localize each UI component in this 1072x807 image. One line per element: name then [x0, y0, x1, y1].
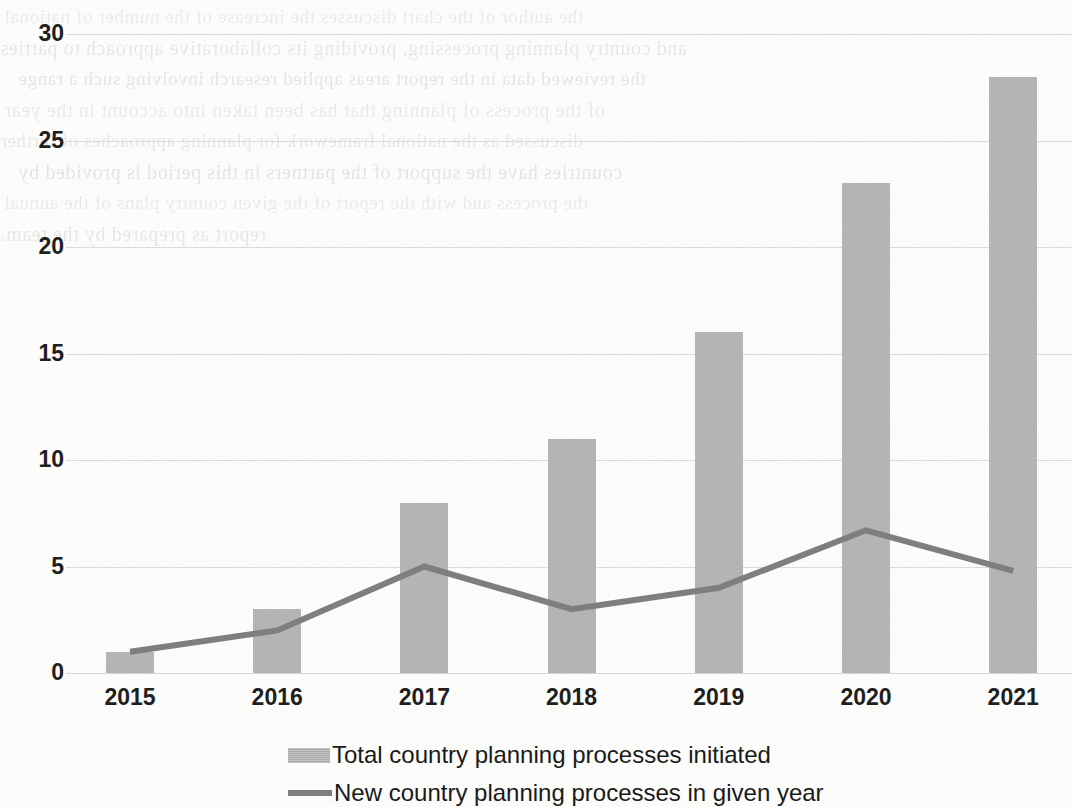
- y-tick-label-10: 10: [18, 448, 64, 471]
- legend-bar-swatch-icon: [288, 748, 330, 763]
- legend-item-new[interactable]: New country planning processes in given …: [0, 774, 1072, 807]
- legend-label-total: Total country planning processes initiat…: [332, 743, 771, 767]
- x-tick-label-2018: 2018: [512, 686, 632, 709]
- gridline-20: [66, 247, 1072, 248]
- bar-2019: [695, 332, 743, 673]
- bar-2016: [253, 609, 301, 673]
- legend-line-swatch-icon: [288, 790, 332, 796]
- gridline-30: [66, 34, 1072, 35]
- y-tick-label-25: 25: [18, 129, 64, 152]
- x-tick-label-2019: 2019: [659, 686, 779, 709]
- legend-item-total[interactable]: Total country planning processes initiat…: [0, 736, 1072, 774]
- bar-2015: [106, 652, 154, 673]
- gridline-15: [66, 354, 1072, 355]
- chart-page: the author of the chart discusses the in…: [0, 0, 1072, 807]
- bar-2020: [842, 183, 890, 673]
- bar-2017: [400, 503, 448, 673]
- gridline-0: [66, 673, 1072, 674]
- y-tick-label-30: 30: [18, 22, 64, 45]
- x-tick-label-2016: 2016: [217, 686, 337, 709]
- legend-label-new: New country planning processes in given …: [334, 781, 824, 805]
- gridline-25: [66, 141, 1072, 142]
- y-tick-label-20: 20: [18, 235, 64, 258]
- chart-legend: Total country planning processes initiat…: [0, 736, 1072, 807]
- chart-plot-area: 051015202530 201520162017201820192020202…: [0, 0, 1072, 807]
- bar-2018: [548, 439, 596, 673]
- y-tick-label-5: 5: [18, 555, 64, 578]
- y-tick-label-0: 0: [18, 661, 64, 684]
- x-tick-label-2020: 2020: [806, 686, 926, 709]
- x-tick-label-2021: 2021: [953, 686, 1072, 709]
- bar-2021: [989, 77, 1037, 673]
- x-tick-label-2015: 2015: [70, 686, 190, 709]
- x-tick-label-2017: 2017: [364, 686, 484, 709]
- y-tick-label-15: 15: [18, 342, 64, 365]
